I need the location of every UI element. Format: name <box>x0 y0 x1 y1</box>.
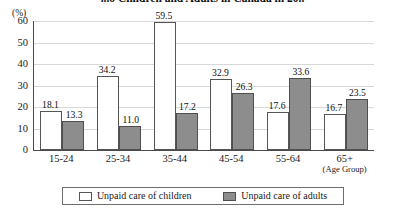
y-tick-label: 0 <box>2 145 28 155</box>
legend-label-adults: Unpaid care of adults <box>241 191 327 201</box>
x-tick-label: 65+(Age Group) <box>316 153 373 174</box>
bar-value-label: 59.5 <box>155 11 172 21</box>
bar-value-label: 18.1 <box>42 100 59 110</box>
y-tick-label: 20 <box>2 102 28 112</box>
y-tick-label: 10 <box>2 124 28 134</box>
bar-value-label: 33.6 <box>292 67 309 77</box>
bar-group: 32.926.3 <box>204 21 261 150</box>
bar-adults[interactable]: 13.3 <box>62 121 84 150</box>
legend-swatch-adults-icon <box>223 192 236 201</box>
bar-adults[interactable]: 23.5 <box>346 99 368 150</box>
bar-children[interactable]: 17.6 <box>267 112 289 150</box>
y-tick-label: 30 <box>2 81 28 91</box>
chart-legend: Unpaid care of children Unpaid care of a… <box>62 187 344 205</box>
legend-item-adults: Unpaid care of adults <box>223 191 327 201</box>
bar-value-label: 17.6 <box>269 101 286 111</box>
legend-item-children: Unpaid care of children <box>79 191 192 201</box>
bar-group: 16.723.5 <box>317 21 374 150</box>
legend-swatch-children-icon <box>79 192 92 201</box>
bar-group: 17.633.6 <box>261 21 318 150</box>
y-tick-label: 40 <box>2 59 28 69</box>
bar-value-label: 17.2 <box>179 102 196 112</box>
bar-value-label: 34.2 <box>99 65 116 75</box>
plot-area: 18.113.334.211.059.517.232.926.317.633.6… <box>33 21 374 151</box>
bar-children[interactable]: 59.5 <box>154 22 176 150</box>
x-tick-label: 45-54 <box>203 153 260 164</box>
bar-chart: ...o Children and Adults in Canada in 20… <box>0 0 405 212</box>
bar-value-label: 11.0 <box>123 115 139 125</box>
chart-title-clipped: ...o Children and Adults in Canada in 20… <box>0 0 405 6</box>
bar-group: 18.113.3 <box>34 21 91 150</box>
bar-children[interactable]: 18.1 <box>40 111 62 150</box>
chart-title: ...o Children and Adults in Canada in 20… <box>101 0 305 4</box>
x-tick-label: 35-44 <box>146 153 203 164</box>
legend-label-children: Unpaid care of children <box>97 191 192 201</box>
bar-adults[interactable]: 11.0 <box>119 126 141 150</box>
bar-adults[interactable]: 33.6 <box>289 78 311 150</box>
bar-children[interactable]: 16.7 <box>324 114 346 150</box>
bar-adults[interactable]: 17.2 <box>176 113 198 150</box>
bar-value-label: 23.5 <box>349 88 366 98</box>
bar-children[interactable]: 32.9 <box>210 79 232 150</box>
bar-group: 59.517.2 <box>147 21 204 150</box>
bar-children[interactable]: 34.2 <box>97 76 119 150</box>
bar-value-label: 13.3 <box>66 110 83 120</box>
bar-adults[interactable]: 26.3 <box>232 93 254 150</box>
bar-value-label: 32.9 <box>212 68 229 78</box>
x-tick-label: 15-24 <box>33 153 90 164</box>
bar-value-label: 26.3 <box>236 82 253 92</box>
bar-value-label: 16.7 <box>325 103 342 113</box>
x-axis-title: (Age Group) <box>316 164 373 174</box>
y-tick-label: 50 <box>2 38 28 48</box>
x-tick-label: 55-64 <box>260 153 317 164</box>
y-tick-label: 60 <box>2 16 28 26</box>
x-tick-label: 25-34 <box>90 153 147 164</box>
bar-group: 34.211.0 <box>91 21 148 150</box>
